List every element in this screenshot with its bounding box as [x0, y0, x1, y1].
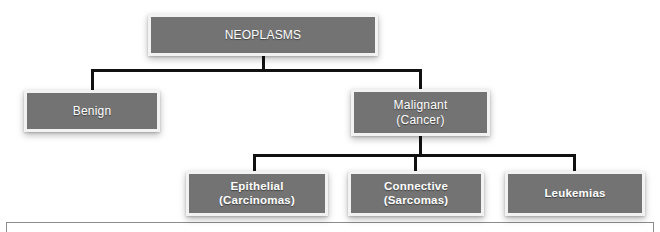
neoplasms-classification-diagram: NEOPLASMS Benign Malignant (Cancer) Epit… [0, 0, 660, 232]
node-neoplasms-label: NEOPLASMS [151, 28, 375, 42]
node-malignant-line1: Malignant [394, 98, 448, 112]
node-connective: Connective (Sarcomas) [348, 171, 484, 216]
node-epithelial-line1: Epithelial [230, 180, 283, 192]
node-leukemias: Leukemias [505, 171, 645, 216]
node-malignant-line2: (Cancer) [354, 113, 487, 127]
node-malignant-label: Malignant (Cancer) [354, 98, 487, 126]
node-epithelial-line2: (Carcinomas) [189, 194, 325, 208]
node-benign-label: Benign [27, 104, 157, 118]
node-epithelial: Epithelial (Carcinomas) [186, 171, 328, 216]
node-neoplasms: NEOPLASMS [148, 14, 378, 56]
node-epithelial-label: Epithelial (Carcinomas) [189, 180, 325, 207]
connector-malignant-stem [419, 136, 422, 156]
node-connective-line2: (Sarcomas) [351, 194, 481, 208]
connector-drop-benign [91, 69, 94, 92]
node-connective-label: Connective (Sarcomas) [351, 180, 481, 207]
node-leukemias-label: Leukemias [508, 187, 642, 201]
node-benign: Benign [24, 90, 160, 132]
connector-root-horizontal-bar [91, 69, 422, 72]
node-malignant: Malignant (Cancer) [351, 89, 490, 136]
bottom-frame-divider [6, 222, 654, 232]
node-connective-line1: Connective [384, 180, 448, 192]
connector-drop-malignant [419, 69, 422, 91]
